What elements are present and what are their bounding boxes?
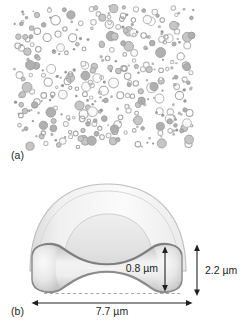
scatter-circle [60,138,66,144]
scatter-circle [118,115,123,120]
scatter-circle [44,78,52,86]
scatter-circle [165,34,173,42]
scatter-circle [104,98,109,103]
scatter-circle [75,95,77,97]
scatter-circle [73,48,76,51]
scatter-circle [100,135,105,140]
scatter-circle [59,90,68,99]
scatter-circle [175,128,178,131]
scatter-circle [115,60,117,62]
scatter-circle [174,124,178,128]
panel-a: (a) [0,0,252,168]
scatter-circle [21,10,24,13]
scatter-circle [121,41,126,46]
scatter-circle [78,21,83,26]
scatter-circle [55,86,58,89]
scatter-circle [171,60,174,63]
scatter-circle [143,62,149,68]
scatter-circle [73,116,76,119]
scatter-circle [32,10,34,12]
scatter-circle [99,14,106,21]
scatter-circle [148,137,151,140]
scatter-circle [81,71,90,80]
scatter-circle [124,131,127,134]
scatter-circle [93,119,97,123]
scatter-circle [146,66,152,72]
scatter-circle [127,83,131,87]
scatter-circle [156,122,164,130]
scatter-circle [91,103,94,106]
scatter-circle [47,65,56,74]
scatter-circle [26,61,35,70]
scatter-circle [39,121,47,129]
scatter-circle [34,28,41,35]
scatter-circle [99,96,102,99]
scatter-circle [42,69,44,71]
scatter-circle [70,20,73,23]
scatter-circle [37,111,40,114]
scatter-circle [183,119,192,128]
scatter-circle [49,17,51,19]
scatter-circle [182,77,187,82]
scatter-circle [175,13,178,16]
scatter-circle [183,8,186,11]
scatter-circle [55,139,58,142]
scatter-circle [19,91,25,97]
scatter-circle [14,23,16,25]
scatter-circle [29,26,34,31]
scatter-circle [178,112,181,115]
scatter-circle [106,133,111,138]
scatter-circle [132,59,136,63]
scatter-circle [162,59,164,61]
scatter-circle [172,103,175,106]
scatter-circle [24,127,28,131]
scatter-circle [135,142,141,148]
panel-b: 0.8 µm 2.2 µm 7.7 µm (b) [0,168,252,333]
dimension-height-total: 2.2 µm [194,245,237,297]
scatter-circle-group [13,4,195,150]
scatter-circle [30,43,34,47]
dim-2-2-arrow-bottom [194,290,200,297]
scatter-circle [65,51,69,55]
scatter-circle [178,41,181,44]
scatter-circle [183,89,185,91]
scatter-circle [177,53,184,60]
dim-2-2-arrow-top [194,245,200,252]
rbc-cross-section-diagram: 0.8 µm 2.2 µm 7.7 µm [0,168,252,318]
scatter-circle [107,15,111,19]
scatter-circle [116,24,121,29]
scatter-circle [174,118,177,121]
scatter-circle [22,108,28,114]
scatter-circle [76,29,79,32]
scatter-circle [82,82,91,91]
scatter-circle [18,113,20,115]
scatter-circle [79,110,88,119]
scatter-circle [21,44,23,46]
scatter-circle [140,100,142,102]
scatter-circle [22,13,25,16]
scatter-circle [35,135,37,137]
scatter-circle [94,131,99,136]
scatter-circle [51,15,61,25]
scatter-circle [183,99,186,102]
scatter-circle [14,100,17,103]
scatter-circle [189,71,193,75]
scatter-circle [110,95,113,98]
scatter-circle [19,102,24,107]
scatter-circle [152,62,155,65]
scatter-circle [41,73,45,77]
scatter-circle [94,6,98,10]
scatter-circle [161,89,163,91]
dim-2-2-label: 2.2 µm [205,264,238,276]
scatter-circle [41,23,46,28]
scatter-circle [138,89,143,94]
scatter-circle [158,25,161,28]
scatter-circle [83,92,88,97]
scatter-circle [159,68,164,73]
scatter-circle [192,9,194,11]
scatter-circle [132,129,136,133]
scatter-circle [166,67,170,71]
scatter-circle [176,38,178,40]
scatter-circle [171,6,176,11]
scatter-circle [145,47,147,49]
